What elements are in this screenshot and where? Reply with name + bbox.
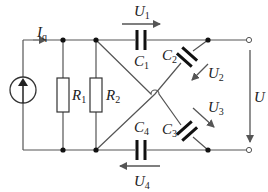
- label-r2: R2: [106, 88, 120, 105]
- label-c3: C3: [162, 122, 177, 139]
- capacitor-c1: [137, 30, 145, 50]
- label-r1: R1: [72, 88, 86, 105]
- label-u1: U1: [134, 4, 150, 21]
- label-c2: C2: [162, 48, 177, 65]
- current-source: [10, 77, 36, 103]
- u2-arrow-icon: [192, 64, 208, 80]
- terminal-top: [246, 37, 251, 42]
- label-u: U: [254, 90, 265, 105]
- resistor-r1: [57, 78, 69, 112]
- label-u3: U3: [208, 100, 224, 117]
- label-c1: C1: [134, 54, 149, 71]
- label-iq: Iq: [37, 25, 47, 42]
- terminal-bottom: [246, 147, 251, 152]
- label-u4: U4: [134, 174, 150, 191]
- capacitor-c4: [137, 140, 145, 160]
- label-c4: C4: [134, 120, 149, 137]
- resistor-r2: [90, 78, 102, 112]
- label-u2: U2: [208, 66, 224, 83]
